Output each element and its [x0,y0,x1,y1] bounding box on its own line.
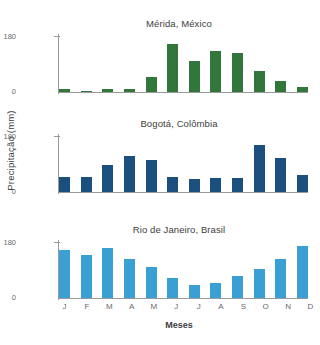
bar [81,91,92,92]
bar [59,89,70,92]
bar [124,156,135,192]
bar [189,61,200,92]
y-axis-label-container: Precipitação (mm) [0,0,20,300]
bar [297,87,308,92]
x-axis-month-label: O [260,302,271,311]
chart-title-merida: Mérida, México [28,18,312,29]
bar-group-bogota [59,136,308,192]
bar [297,175,308,192]
x-axis-month-label: A [126,302,137,311]
bar [59,250,70,298]
y-tick-label-0-bogota: 0 [0,187,16,196]
y-tick-label-180-rio: 180 [0,238,16,247]
y-axis-label: Precipitação (mm) [5,110,16,190]
bar [167,177,178,192]
bar [232,276,243,298]
x-axis-month-label: J [193,302,204,311]
x-axis-label: Meses [28,320,312,330]
bar [232,53,243,92]
y-tick-label-0-rio: 0 [0,293,16,302]
bar [254,71,265,92]
y-tick-label-180-bogota: 180 [0,132,16,141]
bar [102,165,113,192]
x-axis-month-label: J [171,302,182,311]
chart-panel-merida: Mérida, México 180 0 [28,16,312,112]
bar [146,160,157,192]
bar [297,246,308,298]
bar [146,77,157,92]
bar [146,267,157,298]
bar [232,178,243,192]
bar [275,81,286,92]
bar [189,179,200,192]
bar [210,51,221,92]
precipitation-figure: Precipitação (mm) Mérida, México 180 0 B… [0,0,320,345]
x-axis-line-bogota [58,192,308,193]
bar [254,269,265,298]
x-axis-line-rio [58,298,308,299]
bar-group-rio [59,242,308,298]
x-axis-month-label: M [104,302,115,311]
bar [102,89,113,92]
chart-panel-bogota: Bogotá, Colômbia 180 0 [28,116,312,212]
chart-title-rio: Rio de Janeiro, Brasil [28,224,312,235]
bar [189,285,200,298]
x-axis-month-label: D [305,302,316,311]
x-axis-month-label: J [59,302,70,311]
bar [210,178,221,192]
bar [81,177,92,192]
bar [275,259,286,298]
bar [254,145,265,192]
y-tick-label-0-merida: 0 [0,87,16,96]
bar [210,283,221,298]
bar [275,158,286,192]
x-axis-month-label: M [148,302,159,311]
y-tick-label-180-merida: 180 [0,32,16,41]
x-axis-month-label: A [216,302,227,311]
bar [124,259,135,298]
bar [59,177,70,192]
bar [102,248,113,298]
x-axis-line-merida [58,92,308,93]
bar-group-merida [59,36,308,92]
bar [81,255,92,298]
bar [124,89,135,92]
bar [167,44,178,92]
chart-title-bogota: Bogotá, Colômbia [28,118,312,129]
x-axis-month-label: F [81,302,92,311]
x-axis-month-label: N [283,302,294,311]
x-axis-month-labels: JFMAMJJASOND [59,302,316,311]
x-axis-month-label: S [238,302,249,311]
bar [167,278,178,298]
